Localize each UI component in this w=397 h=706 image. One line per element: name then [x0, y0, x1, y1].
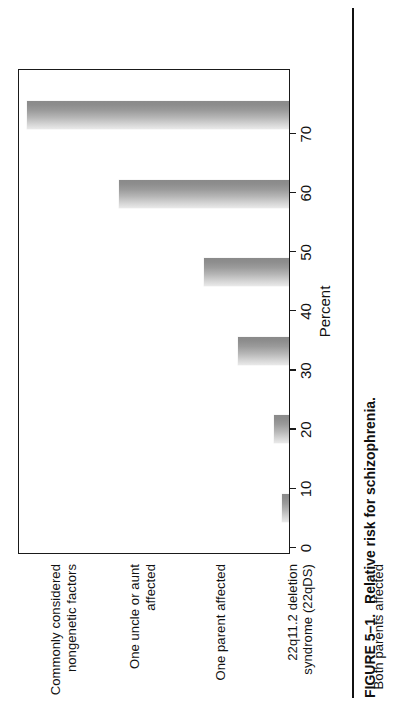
category-label: One uncle or aunt affected — [127, 564, 158, 669]
axis-tick-label: 20 — [298, 421, 313, 438]
axis-tick-label: 0 — [298, 544, 313, 552]
bar[interactable] — [119, 180, 289, 208]
axis-tick-label: 10 — [298, 481, 313, 498]
axis-tick-label: 60 — [298, 185, 313, 202]
axis-tick-label: 50 — [298, 244, 313, 261]
axis-tick — [290, 369, 296, 370]
category-axis-labels: Commonly considered nongenetic factorsOn… — [18, 556, 290, 706]
figure-number: FIGURE 5–1. — [362, 614, 378, 698]
bar[interactable] — [27, 101, 289, 129]
axis-tick-label: 70 — [298, 126, 313, 143]
axis-tick — [290, 192, 296, 193]
axis-tick-label: 40 — [298, 303, 313, 320]
book-page: Commonly considered nongenetic factorsOn… — [0, 0, 397, 706]
axis-tick — [290, 310, 296, 311]
category-label: Commonly considered nongenetic factors — [48, 564, 79, 695]
category-label: One parent affected — [213, 564, 228, 681]
value-axis-title: Percent — [316, 69, 333, 554]
bar-series — [19, 70, 289, 553]
bar-slot — [19, 312, 289, 391]
axis-tick — [290, 488, 296, 489]
figure-caption-text: Relative risk for schizophrenia. — [362, 397, 378, 604]
bar-slot — [19, 155, 289, 234]
figure-caption: FIGURE 5–1.Relative risk for schizophren… — [362, 8, 378, 698]
plot-area — [18, 69, 290, 554]
axis-tick — [290, 428, 296, 429]
bar-slot — [19, 233, 289, 312]
category-label: 22q11.2 deletion syndrome (22qDS) — [285, 564, 316, 675]
axis-tick — [290, 547, 296, 548]
axis-tick-label: 30 — [298, 362, 313, 379]
axis-tick — [290, 251, 296, 252]
rotated-page-wrapper: Commonly considered nongenetic factorsOn… — [0, 0, 397, 706]
figure-container: Commonly considered nongenetic factorsOn… — [0, 0, 397, 706]
bar-slot — [19, 469, 289, 548]
bar-slot — [19, 390, 289, 469]
caption-divider — [352, 8, 354, 698]
bar[interactable] — [282, 494, 289, 522]
bar[interactable] — [274, 415, 289, 443]
plot-inner — [19, 70, 289, 553]
bar[interactable] — [204, 258, 289, 286]
value-axis: 010203040506070 — [290, 69, 291, 554]
bar[interactable] — [238, 337, 289, 365]
bar-slot — [19, 76, 289, 155]
axis-tick — [290, 133, 296, 134]
